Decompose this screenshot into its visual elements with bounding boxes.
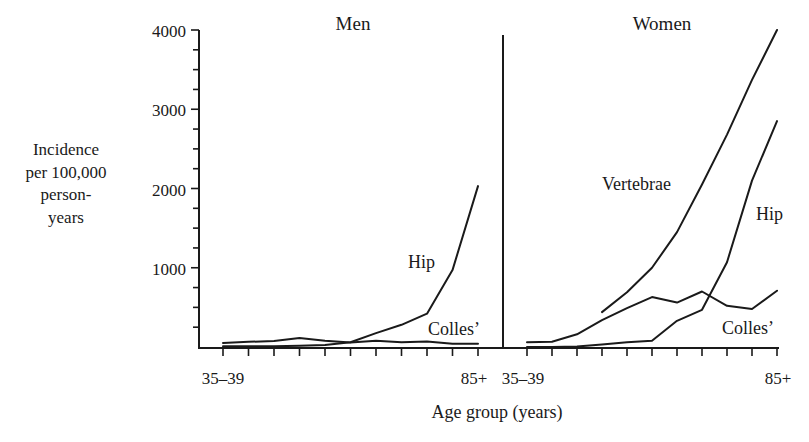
y-tick-label-4000: 4000 [152,22,186,41]
fracture-incidence-chart: Men Women Incidence per 100,000 person- … [0,0,809,442]
women-last-tick-label: 85+ [765,369,792,388]
y-tick-label-2000: 2000 [152,181,186,200]
men-colles-label: Colles’ [428,319,480,339]
men-last-tick-label: 85+ [461,369,488,388]
women-hip-label: Hip [756,204,783,224]
x-axis-title: Age group (years) [432,402,563,423]
y-tick-labels: 4000 3000 2000 1000 [152,22,186,279]
women-vertebrae-label: Vertebrae [602,174,671,194]
y-tick-label-3000: 3000 [152,101,186,120]
y-axis-title-line-1: Incidence [33,140,99,159]
women-first-tick-label: 35–39 [502,369,545,388]
y-tick-label-1000: 1000 [152,260,186,279]
x-ticks-men [223,348,478,356]
men-hip-label: Hip [408,252,435,272]
y-axis-title-line-4: years [48,208,84,227]
women-panel-title: Women [633,13,692,34]
y-axis-title-line-3: person- [41,185,92,204]
y-axis-title: Incidence per 100,000 person- years [25,140,106,227]
women-hip-line [527,121,777,347]
y-axis [191,30,199,348]
women-vertebrae-line [602,30,777,312]
women-colles-label: Colles’ [722,318,774,338]
men-first-tick-label: 35–39 [202,369,245,388]
men-panel-title: Men [336,13,371,34]
y-axis-title-line-2: per 100,000 [25,163,106,182]
x-ticks-women [527,348,777,356]
